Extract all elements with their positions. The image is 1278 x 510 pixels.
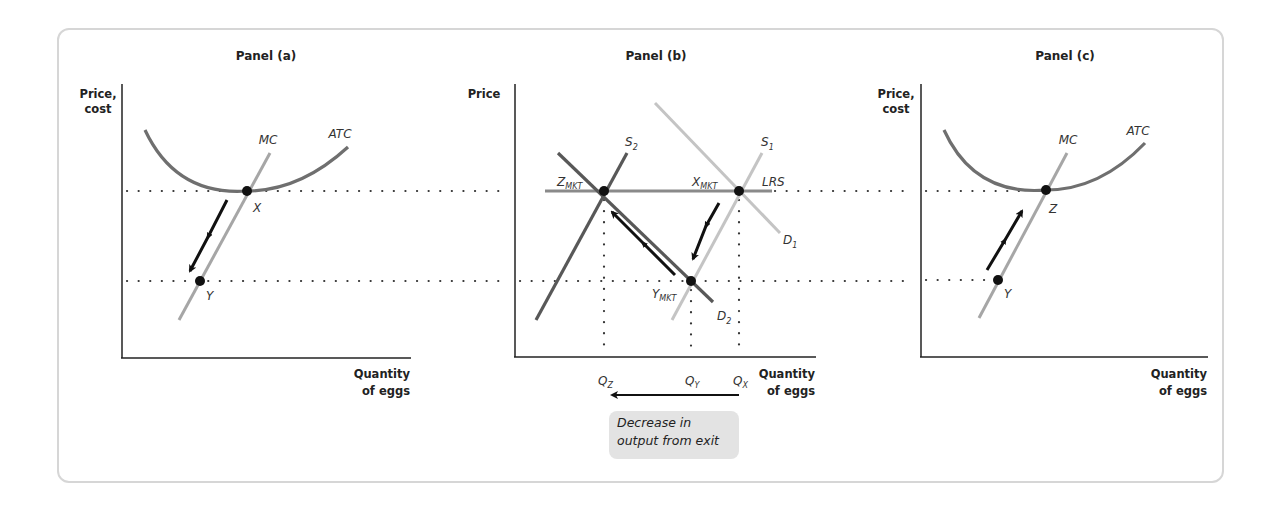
s1-label: S1 bbox=[761, 135, 774, 152]
point-x-label: X bbox=[252, 201, 262, 215]
s2-curve bbox=[536, 153, 627, 320]
panel-c-x-label-1: Quantity bbox=[1151, 367, 1208, 381]
panel-a: Panel (a) Price, cost Quantity of eggs A… bbox=[79, 49, 500, 398]
panel-b-title: Panel (b) bbox=[625, 49, 686, 63]
qy-label: QY bbox=[685, 374, 700, 390]
mc-label: MC bbox=[259, 133, 278, 147]
d1-curve bbox=[655, 103, 780, 233]
atc-curve bbox=[145, 130, 348, 191]
lrs-label: LRS bbox=[762, 175, 785, 189]
panel-c-x-label-2: of eggs bbox=[1159, 384, 1207, 398]
qz-label: QZ bbox=[598, 374, 613, 390]
mc-label-c: MC bbox=[1059, 133, 1078, 147]
y-mkt-label: YMKT bbox=[652, 287, 677, 303]
point-y-mkt bbox=[686, 276, 696, 286]
panel-a-x-label-1: Quantity bbox=[354, 367, 411, 381]
panel-b-y-label: Price bbox=[468, 87, 501, 101]
atc-curve-c bbox=[944, 130, 1145, 191]
point-z-mkt bbox=[599, 186, 609, 196]
point-x-mkt bbox=[734, 186, 744, 196]
panel-b: Panel (b) Price Quantity of eggs S2 S1 D… bbox=[468, 49, 905, 398]
mc-curve bbox=[179, 153, 270, 320]
panel-c-y-label-1: Price, bbox=[877, 87, 914, 101]
point-y-label-c: Y bbox=[1004, 287, 1013, 301]
atc-label: ATC bbox=[327, 127, 352, 141]
s1-curve bbox=[672, 153, 762, 320]
panel-a-y-label-2: cost bbox=[84, 102, 112, 116]
panel-a-x-label-2: of eggs bbox=[362, 384, 410, 398]
mc-curve-c bbox=[979, 153, 1067, 318]
panel-a-y-label-1: Price, bbox=[79, 87, 116, 101]
qx-label: QX bbox=[733, 374, 748, 390]
point-y-c bbox=[993, 275, 1003, 285]
x-mkt-label: XMKT bbox=[691, 175, 718, 191]
z-mkt-label: ZMKT bbox=[556, 175, 583, 191]
arrow-xmkt-to-ymkt bbox=[693, 203, 719, 259]
point-y-label: Y bbox=[206, 289, 215, 303]
arrow-y-to-z bbox=[987, 211, 1022, 270]
panel-a-title: Panel (a) bbox=[236, 49, 297, 63]
d1-label: D1 bbox=[783, 233, 797, 250]
point-y bbox=[195, 276, 205, 286]
s2-label: S2 bbox=[625, 135, 638, 152]
atc-label-c: ATC bbox=[1125, 124, 1150, 138]
panel-c-title: Panel (c) bbox=[1035, 49, 1095, 63]
panel-b-x-label-1: Quantity bbox=[759, 367, 816, 381]
panel-b-x-label-2: of eggs bbox=[767, 384, 815, 398]
panel-c-y-label-2: cost bbox=[882, 102, 910, 116]
panel-c: Panel (c) Price, cost Quantity of eggs A… bbox=[877, 49, 1208, 398]
arrow-ymkt-to-zmkt bbox=[612, 212, 675, 275]
point-z-label: Z bbox=[1048, 202, 1058, 216]
point-x bbox=[242, 186, 252, 196]
annotation-text: Decrease in output from exit bbox=[617, 414, 719, 450]
point-z bbox=[1041, 185, 1051, 195]
d2-label: D2 bbox=[717, 309, 731, 326]
arrow-x-to-y bbox=[190, 200, 227, 271]
